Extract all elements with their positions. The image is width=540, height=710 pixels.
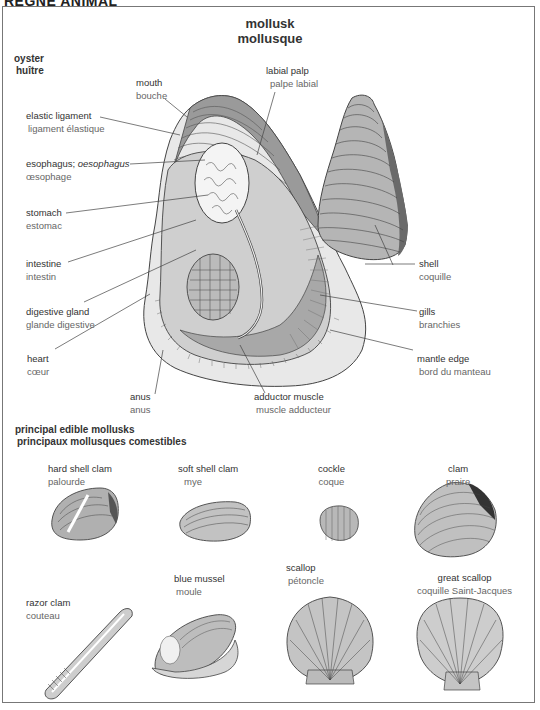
- label-esophagus: esophagus; oesophagus œsophage: [26, 157, 130, 183]
- label-soft-shell-clam-en: soft shell clam: [178, 463, 238, 474]
- label-esophagus-fr: œsophage: [26, 170, 130, 183]
- great-scallop-illustration: [417, 598, 503, 690]
- scallop-illustration: [287, 597, 373, 684]
- label-heart-en: heart: [27, 353, 49, 364]
- label-gills: gills branchies: [419, 305, 460, 331]
- label-shell: shell coquille: [419, 257, 451, 283]
- label-blue-mussel-fr: moule: [174, 585, 225, 598]
- label-clam: clam praire: [446, 462, 470, 488]
- label-mouth: mouth bouche: [136, 76, 167, 102]
- label-stomach-en: stomach: [26, 207, 62, 218]
- label-clam-en: clam: [448, 463, 468, 474]
- soft-shell-clam-illustration: [180, 502, 251, 541]
- label-adductor-muscle: adductor muscle muscle adducteur: [254, 390, 331, 416]
- label-gills-en: gills: [419, 306, 435, 317]
- label-heart-fr: cœur: [27, 365, 49, 378]
- label-clam-fr: praire: [446, 475, 470, 488]
- label-mantle-edge: mantle edge bord du manteau: [417, 352, 491, 378]
- label-elastic-ligament-fr: ligament élastique: [26, 122, 105, 135]
- label-adductor-muscle-en: adductor muscle: [254, 391, 324, 402]
- label-razor-clam-fr: couteau: [26, 609, 70, 622]
- edible-heading-fr: principaux mollusques comestibles: [15, 436, 187, 448]
- edible-heading: principal edible mollusks principaux mol…: [15, 424, 187, 448]
- hard-shell-clam-illustration: [52, 488, 119, 540]
- oyster-shell-illustration: [318, 95, 408, 260]
- label-great-scallop-en: great scallop: [438, 572, 492, 583]
- label-cockle: cockle coque: [318, 462, 345, 488]
- label-esophagus-en-alt: oesophagus: [78, 158, 130, 169]
- cockle-illustration: [320, 506, 358, 541]
- label-digestive-gland-en: digestive gland: [26, 306, 89, 317]
- label-soft-shell-clam: soft shell clam mye: [178, 462, 238, 488]
- label-hard-shell-clam-en: hard shell clam: [48, 463, 112, 474]
- label-blue-mussel: blue mussel moule: [174, 572, 225, 598]
- label-mouth-en: mouth: [136, 77, 162, 88]
- label-stomach-fr: estomac: [26, 219, 62, 232]
- label-intestine-en: intestine: [26, 258, 61, 269]
- label-anus: anus anus: [130, 390, 151, 416]
- label-mantle-edge-en: mantle edge: [417, 353, 469, 364]
- label-scallop-en: scallop: [286, 562, 316, 573]
- label-adductor-muscle-fr: muscle adducteur: [254, 403, 331, 416]
- label-labial-palp-en: labial palp: [266, 65, 309, 76]
- label-hard-shell-clam: hard shell clam palourde: [48, 462, 112, 488]
- label-shell-en: shell: [419, 258, 439, 269]
- label-stomach: stomach estomac: [26, 206, 62, 232]
- label-shell-fr: coquille: [419, 270, 451, 283]
- label-cockle-fr: coque: [318, 475, 345, 488]
- label-gills-fr: branchies: [419, 318, 460, 331]
- label-digestive-gland: digestive gland glande digestive: [26, 305, 95, 331]
- label-anus-fr: anus: [130, 403, 151, 416]
- label-digestive-gland-fr: glande digestive: [26, 318, 95, 331]
- label-razor-clam-en: razor clam: [26, 597, 70, 608]
- label-elastic-ligament-en: elastic ligament: [26, 110, 91, 121]
- label-heart: heart cœur: [27, 352, 49, 378]
- razor-clam-illustration: [45, 609, 132, 699]
- label-hard-shell-clam-fr: palourde: [48, 475, 112, 488]
- label-scallop: scallop pétoncle: [286, 561, 324, 587]
- label-blue-mussel-en: blue mussel: [174, 573, 225, 584]
- label-elastic-ligament: elastic ligament ligament élastique: [26, 109, 105, 135]
- label-soft-shell-clam-fr: mye: [178, 475, 238, 488]
- label-labial-palp: labial palp palpe labial: [266, 64, 318, 90]
- label-esophagus-en: esophagus;: [26, 158, 75, 169]
- label-cockle-en: cockle: [318, 463, 345, 474]
- clam-illustration: [415, 483, 497, 557]
- label-intestine-fr: intestin: [26, 270, 61, 283]
- edible-heading-en: principal edible mollusks: [15, 424, 187, 436]
- label-anus-en: anus: [130, 391, 151, 402]
- label-mouth-fr: bouche: [136, 89, 167, 102]
- label-labial-palp-fr: palpe labial: [266, 77, 318, 90]
- blue-mussel-illustration: [152, 615, 238, 679]
- label-razor-clam: razor clam couteau: [26, 596, 70, 622]
- label-intestine: intestine intestin: [26, 257, 61, 283]
- label-great-scallop: great scallop coquille Saint-Jacques: [417, 571, 512, 597]
- label-great-scallop-fr: coquille Saint-Jacques: [417, 584, 512, 597]
- label-mantle-edge-fr: bord du manteau: [417, 365, 491, 378]
- label-scallop-fr: pétoncle: [286, 574, 324, 587]
